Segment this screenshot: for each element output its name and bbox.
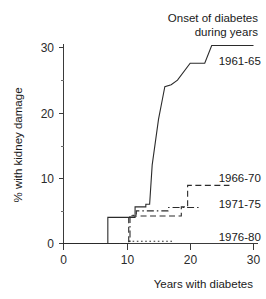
x-tick-label-20: 20 xyxy=(184,253,198,267)
legend-label-1966-70: 1966-70 xyxy=(219,172,261,184)
legend-label-1976-80: 1976-80 xyxy=(219,231,261,243)
legend-label-1971-75: 1971-75 xyxy=(219,198,261,210)
chart-title-line2: during years xyxy=(195,26,259,38)
series-line-1961-65 xyxy=(64,46,254,244)
x-tick-label-0: 0 xyxy=(60,253,67,267)
y-tick-label-30: 30 xyxy=(41,41,55,55)
y-tick-label-20: 20 xyxy=(41,107,55,121)
legend-group: 1961-651966-701971-751976-80 xyxy=(219,55,261,243)
series-line-1966-70 xyxy=(64,185,230,243)
chart-container: Onset of diabetes during years % with ki… xyxy=(0,0,266,299)
x-axis-label: Years with diabetes xyxy=(154,278,254,290)
x-tick-label-10: 10 xyxy=(121,253,135,267)
series-group xyxy=(64,46,254,244)
kidney-damage-line-chart: Onset of diabetes during years % with ki… xyxy=(0,0,266,299)
chart-title-line1: Onset of diabetes xyxy=(168,12,258,24)
x-tick-label-30: 30 xyxy=(247,253,261,267)
y-tick-label-0: 0 xyxy=(47,237,54,251)
y-axis-tick-labels: 0 10 20 30 xyxy=(41,41,55,251)
x-axis-tick-labels: 0 10 20 30 xyxy=(60,253,260,267)
legend-label-1961-65: 1961-65 xyxy=(219,55,261,67)
y-tick-label-10: 10 xyxy=(41,172,55,186)
y-axis-label: % with kidney damage xyxy=(12,87,24,202)
series-line-1971-75 xyxy=(64,208,200,244)
x-axis-ticks xyxy=(64,244,254,250)
y-axis-ticks xyxy=(59,48,64,244)
